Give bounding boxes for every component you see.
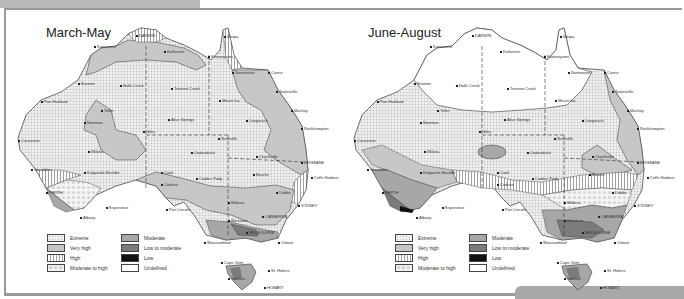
city-label: Dubbo: [276, 190, 291, 195]
city-label: Orbost: [614, 240, 629, 245]
city-label: Warrnambool: [204, 240, 231, 245]
city-label: Strahan: [564, 276, 581, 281]
city-label: Wiluna: [88, 149, 103, 154]
city-marker-icon: [143, 131, 145, 133]
city-marker-icon: [604, 270, 606, 272]
header-bar: [0, 0, 200, 8]
city-marker-icon: [41, 101, 43, 103]
city-label: Alice Springs: [168, 117, 194, 122]
city-marker-icon: [502, 209, 504, 211]
city-label: Coober Pedy: [196, 176, 222, 181]
city-label: Alice Springs: [504, 117, 530, 122]
swatch-very-high: [395, 244, 413, 252]
city-marker-icon: [437, 110, 439, 112]
city-marker-icon: [221, 262, 223, 264]
city-label: Ceduna: [161, 182, 178, 187]
city-label: Katherine: [164, 49, 184, 54]
city-marker-icon: [604, 72, 606, 74]
legend-item-high: High: [395, 253, 428, 263]
swatch-extreme: [47, 234, 65, 242]
legend: Extreme Very high High Moderate to high …: [395, 233, 555, 283]
city-marker-icon: [262, 216, 264, 218]
city-marker-icon: [416, 217, 418, 219]
city-label: SYDNEY: [298, 203, 317, 208]
city-label: Rockhampton: [301, 126, 329, 131]
city-marker-icon: [161, 172, 163, 174]
legend-item-high: High: [47, 253, 80, 263]
swatch-moderate-to-high: [47, 264, 65, 272]
city-label: Oodnadatta: [191, 150, 215, 155]
city-marker-icon: [354, 140, 356, 142]
city-marker-icon: [560, 36, 562, 38]
city-label: Oodnadatta: [527, 150, 551, 155]
city-label: Cook: [161, 170, 173, 175]
legend-item-undefined: Undefined: [121, 263, 167, 273]
city-marker-icon: [264, 287, 266, 289]
city-label: Ceduna: [497, 182, 514, 187]
city-marker-icon: [414, 83, 416, 85]
city-label: Mount Isa: [555, 98, 576, 103]
city-label: Bourke: [589, 172, 605, 177]
city-marker-icon: [568, 72, 570, 74]
city-label: Normanton: [232, 70, 255, 75]
legend-item-undefined: Undefined: [469, 263, 515, 273]
city-label: BRISBANE: [301, 160, 324, 165]
city-label: Weipa: [560, 34, 574, 39]
city-marker-icon: [456, 85, 458, 87]
city-marker-icon: [18, 140, 20, 142]
city-marker-icon: [582, 232, 584, 234]
swatch-extreme: [395, 234, 413, 242]
city-label: DARWIN: [472, 33, 491, 38]
city-marker-icon: [504, 119, 506, 121]
city-marker-icon: [612, 192, 614, 194]
city-marker-icon: [218, 138, 220, 140]
city-label: Normanton: [568, 70, 591, 75]
city-label: Newman: [420, 120, 439, 125]
city-marker-icon: [278, 242, 280, 244]
map-title: March-May: [46, 25, 111, 40]
city-marker-icon: [589, 174, 591, 176]
city-marker-icon: [232, 72, 234, 74]
city-label: Horsham: [228, 218, 247, 223]
city-label: CANBERRA: [598, 214, 623, 219]
swatch-moderate: [469, 234, 487, 242]
city-label: Port Hedland: [377, 99, 403, 104]
swatch-moderate: [121, 234, 139, 242]
city-label: Broome: [414, 81, 431, 86]
city-label: Kununurra: [430, 44, 452, 49]
city-marker-icon: [627, 110, 629, 112]
city-marker-icon: [430, 46, 432, 48]
city-label: PERTH: [382, 190, 398, 195]
city-label: Cairns: [604, 70, 619, 75]
city-marker-icon: [106, 207, 108, 209]
map-panel-march-may: March-May DARWINKununurraKatherineWeipaK…: [6, 10, 346, 293]
city-label: Cape Grim: [557, 260, 579, 265]
city-label: Kowanyama: [544, 54, 569, 59]
city-marker-icon: [564, 278, 566, 280]
city-marker-icon: [94, 46, 96, 48]
swatch-very-high: [47, 244, 65, 252]
city-marker-icon: [101, 110, 103, 112]
city-marker-icon: [544, 56, 546, 58]
city-label: CANBERRA: [262, 214, 287, 219]
city-label: Mount Isa: [219, 98, 240, 103]
city-marker-icon: [367, 169, 369, 171]
city-label: Halls Creek: [120, 83, 144, 88]
map-panel-june-august: June-August DARWINKununurraKatherineWeip…: [342, 10, 682, 293]
city-label: Carnarvon: [354, 138, 376, 143]
city-marker-icon: [532, 178, 534, 180]
city-marker-icon: [191, 152, 193, 154]
city-label: HOBART: [600, 285, 620, 290]
city-marker-icon: [634, 205, 636, 207]
city-marker-icon: [256, 156, 258, 158]
city-marker-icon: [637, 128, 639, 130]
city-label: Coffs Harbour: [311, 175, 339, 180]
legend-item-moderate-to-high: Moderate to high: [395, 263, 456, 273]
city-marker-icon: [246, 120, 248, 122]
city-marker-icon: [527, 152, 529, 154]
city-label: Cape Grim: [221, 260, 243, 265]
city-label: Coober Pedy: [532, 176, 558, 181]
city-label: Cairns: [268, 70, 283, 75]
city-label: Port Lincoln: [166, 207, 190, 212]
city-label: Telfer: [437, 108, 450, 113]
